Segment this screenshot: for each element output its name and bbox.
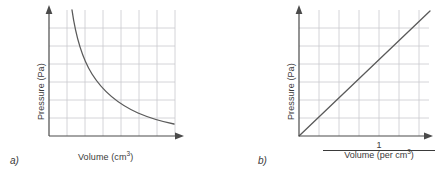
x-axis-label-b: 1 Volume (per cm3) bbox=[323, 141, 435, 161]
panel-tag-b: b) bbox=[258, 155, 267, 166]
panel-b: Pressure (Pa) 1 Volume (per cm3) b) bbox=[219, 0, 438, 178]
grid-horizontal-b bbox=[299, 28, 429, 118]
y-axis-arrow-b bbox=[296, 5, 303, 14]
grid-vertical-a bbox=[67, 10, 175, 136]
x-axis-label-a-tail: ) bbox=[130, 152, 133, 162]
grid-vertical-b bbox=[319, 10, 419, 136]
y-axis-label-a: Pressure (Pa) bbox=[36, 63, 46, 120]
x-axis-label-a-main: Volume (cm bbox=[78, 152, 127, 162]
y-axis-arrow-a bbox=[46, 5, 53, 14]
y-axis-b bbox=[296, 5, 303, 136]
curve-inverse-a bbox=[72, 10, 174, 124]
x-axis-a bbox=[49, 133, 184, 140]
x-axis-arrow-a bbox=[175, 133, 184, 140]
panel-tag-a: a) bbox=[10, 155, 19, 166]
panel-a: Pressure (Pa) Volume (cm3) a) bbox=[0, 0, 219, 178]
x-axis-label-b-den-tail: ) bbox=[411, 150, 414, 160]
x-axis-label-a: Volume (cm3) bbox=[78, 152, 133, 162]
y-axis-label-b: Pressure (Pa) bbox=[286, 63, 296, 120]
figure-two-panel-pressure-graphs: Pressure (Pa) Volume (cm3) a) bbox=[0, 0, 439, 178]
x-axis-label-b-denominator: Volume (per cm3) bbox=[323, 150, 435, 160]
x-axis-arrow-b bbox=[424, 133, 433, 140]
y-axis-a bbox=[46, 5, 53, 136]
x-axis-label-b-den-main: Volume (per cm bbox=[344, 150, 407, 160]
grid-horizontal-a bbox=[49, 28, 175, 118]
